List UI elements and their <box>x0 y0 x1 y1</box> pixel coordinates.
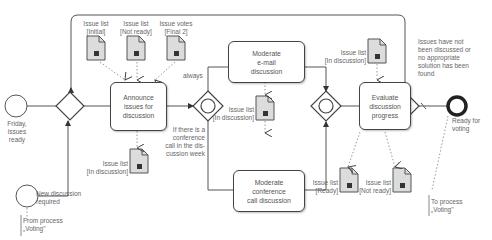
end-event-ready-label: Ready forvoting <box>452 117 480 133</box>
data-object-initial-label: Issue list[Initial] <box>76 20 116 36</box>
condition-conference-call: If there is aconferencecall in the dis-c… <box>150 126 205 158</box>
condition-loop-back: Issues have notbeen discussed orno appro… <box>418 38 471 78</box>
task-evaluate-progress[interactable]: Evaluatediscussionprogress <box>359 82 411 130</box>
task-moderate-email[interactable]: Moderatee-maildiscussion <box>228 41 305 83</box>
data-object-evaluate-label: Issue list[In discussion] <box>314 49 366 65</box>
task-moderate-conference[interactable]: Moderateconferencecall discussion <box>233 170 305 212</box>
data-object-not-ready-bottom-label: Issue list[Not ready] <box>350 179 391 195</box>
task-announce-issues[interactable]: Announceissues fordiscussion <box>110 82 167 131</box>
start-event-new-discussion-label: New discussionrequired <box>36 190 81 206</box>
data-object-not-ready-top-label: Issue list[Not ready] <box>116 20 156 36</box>
exclusive-gateway-join <box>56 92 84 120</box>
data-object-votes-label: Issue votes[Final 2] <box>155 20 197 36</box>
data-object-ready-label: Issue list[Ready] <box>298 179 338 195</box>
annotation-to-voting: To process„Voting" <box>431 198 462 214</box>
annotation-from-voting: From process„Voting" <box>23 217 63 233</box>
data-object-mid-label: Issue list[In discussion] <box>202 106 254 122</box>
condition-always: always <box>183 72 203 80</box>
data-object-announce-out-label: Issue list[In discussion] <box>78 160 128 176</box>
start-event-friday-label: Friday,issuesready <box>4 120 30 144</box>
